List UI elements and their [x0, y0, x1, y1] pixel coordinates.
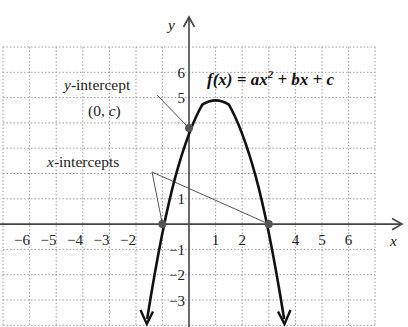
y-tick: −3 [169, 293, 185, 309]
x-tick: 1 [212, 232, 220, 248]
y-intercept-text: -intercept [71, 76, 131, 93]
x-tick: −4 [67, 232, 83, 248]
y-tick: 1 [178, 191, 186, 207]
y-tick: −1 [169, 242, 185, 258]
x-tick: 2 [238, 232, 246, 248]
point-close: ) [116, 102, 121, 120]
x-tick: 5 [318, 232, 326, 248]
y-intercept-point-label: (0, c) [88, 102, 121, 120]
y-tick: 6 [178, 65, 186, 81]
x-tick: −3 [94, 232, 110, 248]
equation-suffix: + bx + c [273, 70, 334, 89]
x-tick: −2 [120, 232, 136, 248]
x-tick: 4 [292, 232, 300, 248]
x-tick: 6 [345, 232, 353, 248]
y-axis-label: y [166, 16, 175, 33]
equation-label: f(x) = ax2 + bx + c [207, 68, 335, 89]
y-tick: −2 [169, 267, 185, 283]
x-axis-label: x [389, 232, 397, 249]
x-tick: −5 [41, 232, 57, 248]
x-intercepts-var: x [46, 153, 54, 170]
axes [0, 17, 402, 327]
x-intercepts-label: x-intercepts [46, 153, 119, 170]
y-intercept-point [185, 124, 193, 132]
y-tick-labels: 6 5 1 −1 −2 −3 [169, 65, 185, 309]
y-tick: 5 [178, 90, 186, 106]
x-intercepts-text: -intercepts [54, 153, 119, 170]
equation-prefix: f(x) = ax [207, 70, 268, 89]
x-intercept-point-right [265, 220, 273, 228]
point-open: (0, [88, 102, 109, 120]
x-intercept-point-left [158, 220, 166, 228]
y-intercept-var: y [62, 76, 71, 93]
y-intercept-label: y-intercept [62, 76, 131, 93]
x-intercept-leader-left [152, 172, 162, 224]
parabola-diagram: y x −6 −5 −4 −3 −2 1 2 4 5 6 6 5 1 −1 −2… [0, 0, 408, 327]
x-tick: −6 [14, 232, 30, 248]
